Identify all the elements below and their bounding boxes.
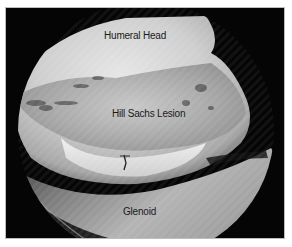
glenoid-label: Glenoid [123, 206, 156, 217]
humeral-head-label: Humeral Head [104, 30, 166, 41]
arthroscopic-scene [6, 8, 285, 239]
arthroscopic-image: Humeral Head Hill Sachs Lesion Glenoid [5, 7, 285, 239]
hill-sachs-lesion-label: Hill Sachs Lesion [112, 108, 185, 119]
